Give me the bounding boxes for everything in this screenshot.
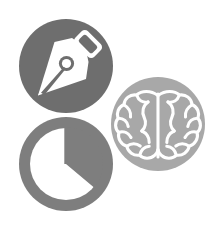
pie-chart-badge[interactable] — [19, 117, 113, 211]
icon-canvas — [0, 0, 215, 230]
icon-composition — [0, 0, 215, 230]
pen-nib-centre-dot — [62, 59, 71, 68]
brain-badge[interactable] — [111, 77, 205, 171]
pen-nib-badge[interactable] — [19, 19, 113, 113]
